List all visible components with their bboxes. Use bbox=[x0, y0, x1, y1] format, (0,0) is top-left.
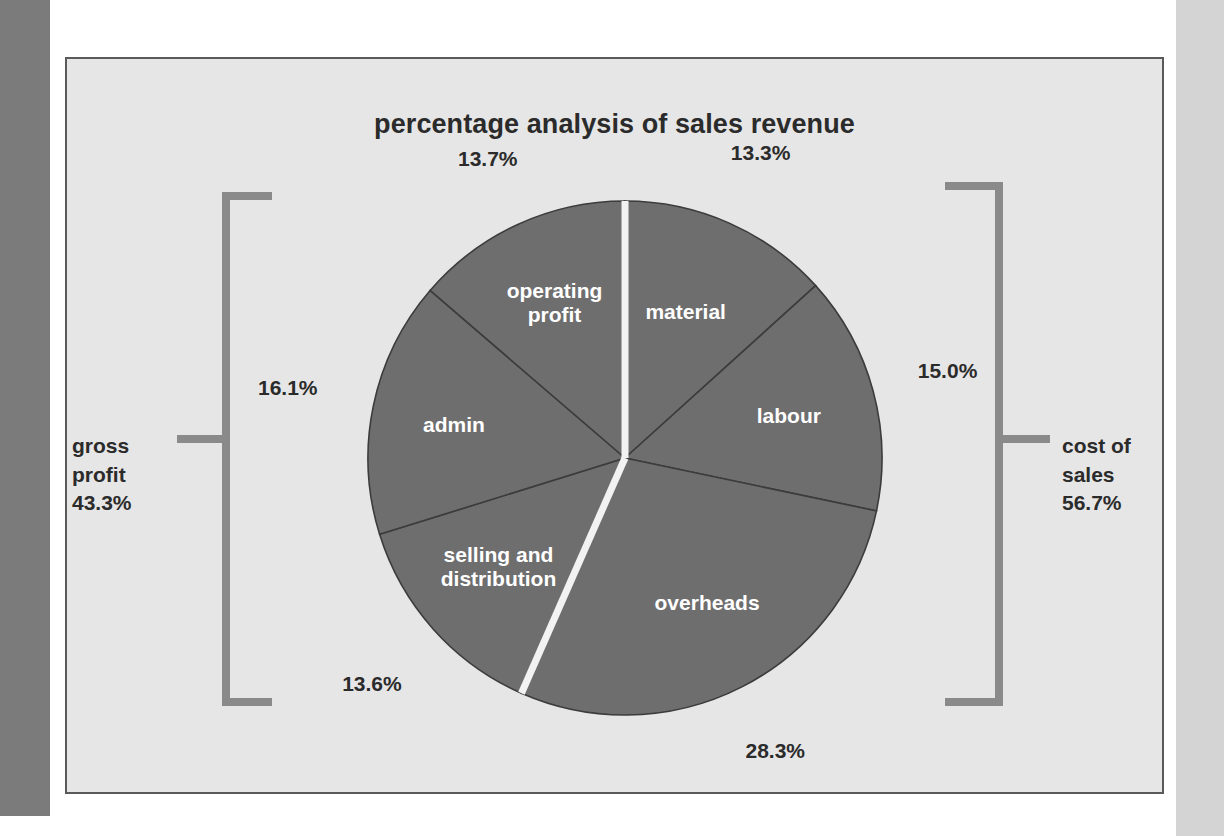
pie-slice-percentage: 16.1% bbox=[258, 376, 318, 400]
bracket-left-top-arm bbox=[222, 192, 272, 200]
cost-of-sales-value: 56.7% bbox=[1062, 489, 1131, 517]
gross-profit-value: 43.3% bbox=[72, 489, 132, 517]
bracket-right-top-arm bbox=[945, 182, 1003, 190]
pie-slice-percentage: 13.7% bbox=[458, 147, 518, 171]
gross-profit-name: gross profit bbox=[72, 434, 129, 485]
cost-of-sales-name: cost of sales bbox=[1062, 434, 1131, 485]
pie-slice-percentage: 28.3% bbox=[745, 739, 805, 763]
bracket-right-spine bbox=[995, 182, 1003, 706]
screenshot-root: percentage analysis of sales revenue mat… bbox=[0, 0, 1224, 836]
pie-slice-percentage: 15.0% bbox=[918, 359, 978, 383]
chart-panel: percentage analysis of sales revenue mat… bbox=[65, 57, 1164, 794]
right-decorative-bar bbox=[1176, 0, 1224, 836]
bracket-left-spine bbox=[222, 192, 230, 706]
cost-of-sales-label: cost of sales 56.7% bbox=[1062, 404, 1131, 546]
pie-slice-percentage: 13.6% bbox=[342, 672, 402, 696]
pie-slice-percentage: 13.3% bbox=[731, 141, 791, 165]
bracket-right-bottom-arm bbox=[945, 698, 1003, 706]
left-decorative-bar bbox=[0, 0, 50, 816]
bracket-left-bottom-arm bbox=[222, 698, 272, 706]
gross-profit-label: gross profit 43.3% bbox=[72, 404, 132, 546]
bracket-left-tick bbox=[177, 435, 230, 443]
bracket-right-tick bbox=[995, 435, 1050, 443]
